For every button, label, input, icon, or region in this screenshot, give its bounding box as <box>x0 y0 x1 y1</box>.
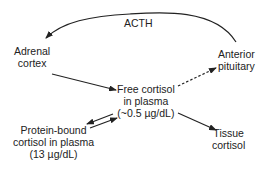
bound-line3: (13 µg/dL) <box>13 148 94 160</box>
free-to-tissue-arrow <box>178 113 216 130</box>
pituitary-line1: Anterior <box>218 48 255 60</box>
node-protein-bound: Protein-bound cortisol in plasma (13 µg/… <box>13 124 94 160</box>
node-free-cortisol: Free cortisol in plasma (~0.5 µg/dL) <box>117 83 175 119</box>
adrenal-line2: cortex <box>14 57 50 69</box>
pituitary-line2: pituitary <box>218 60 255 72</box>
free-line2: in plasma <box>117 95 175 107</box>
feedback-dashed-arrow <box>178 68 216 86</box>
node-adrenal-cortex: Adrenal cortex <box>14 45 50 69</box>
free-line1: Free cortisol <box>117 83 175 95</box>
node-anterior-pituitary: Anterior pituitary <box>218 48 255 72</box>
node-tissue-cortisol: Tissue cortisol <box>212 127 245 151</box>
free-to-bound-arrow <box>87 114 113 124</box>
tissue-line2: cortisol <box>212 139 245 151</box>
adrenal-line1: Adrenal <box>14 45 50 57</box>
acth-label: ACTH <box>124 17 153 29</box>
adrenal-to-free-arrow <box>52 74 116 90</box>
bound-line1: Protein-bound <box>13 124 94 136</box>
tissue-line1: Tissue <box>212 127 245 139</box>
free-line3: (~0.5 µg/dL) <box>117 107 175 119</box>
bound-line2: cortisol in plasma <box>13 136 94 148</box>
